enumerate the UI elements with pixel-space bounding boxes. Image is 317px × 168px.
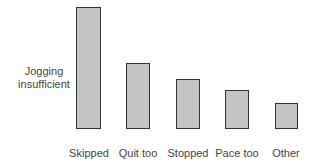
bar-stopped-too-often (176, 79, 200, 129)
bar-quit-too-soon (126, 63, 150, 129)
y-axis-label: Jogging insufficient (16, 65, 72, 91)
bar-pace-too-slow (225, 90, 249, 129)
x-label-other: Other (256, 134, 316, 168)
bar-skipped-entirely (76, 7, 101, 129)
y-axis-label-line2: insufficient (16, 78, 72, 91)
y-axis-label-line1: Jogging (16, 65, 72, 78)
x-label-line1: Other (256, 147, 316, 160)
bar-other (275, 103, 298, 129)
